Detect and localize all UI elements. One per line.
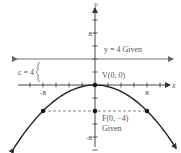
y-tick-label-neg8: -8 [86, 134, 92, 142]
x-axis-label: x [171, 81, 176, 90]
y-tick-label-8: 8 [89, 30, 93, 38]
latus-rectum-point-left [41, 109, 45, 113]
focus-label: F(0, −4) [102, 114, 129, 123]
focus-given-label: Given [102, 124, 122, 133]
y-axis-label: y [93, 0, 98, 9]
directrix-label: y = 4 Given [104, 45, 142, 54]
vertex-point [93, 83, 97, 87]
focus-point [93, 109, 97, 113]
c-distance-brace [36, 62, 40, 82]
latus-rectum-point-right [145, 109, 149, 113]
parabola-diagram: x y -8 8 8 -8 y = 4 Given c = 4 V(0, 0) … [0, 0, 181, 153]
vertex-label: V(0, 0) [102, 71, 125, 80]
x-tick-label-neg8: -8 [40, 89, 46, 97]
x-tick-label-8: 8 [145, 89, 149, 97]
c-distance-label: c = 4 [18, 68, 34, 77]
